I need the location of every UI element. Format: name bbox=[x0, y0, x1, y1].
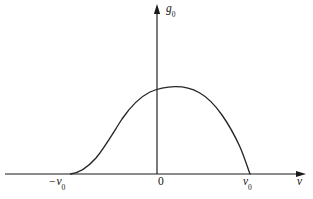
distribution-curve bbox=[71, 87, 251, 174]
y-axis-label: g0 bbox=[166, 3, 176, 15]
x-axis-tick-label-neg-v0: −v0 bbox=[49, 176, 65, 188]
x-axis-tick-label-origin: 0 bbox=[158, 176, 164, 188]
x-axis-label: v bbox=[297, 176, 302, 188]
plot-canvas bbox=[0, 0, 313, 199]
figure-container: g0 −v0 0 v0 v bbox=[0, 0, 313, 199]
x-axis-tick-label-v0: v0 bbox=[243, 176, 252, 188]
y-axis-arrow-icon bbox=[154, 4, 160, 14]
